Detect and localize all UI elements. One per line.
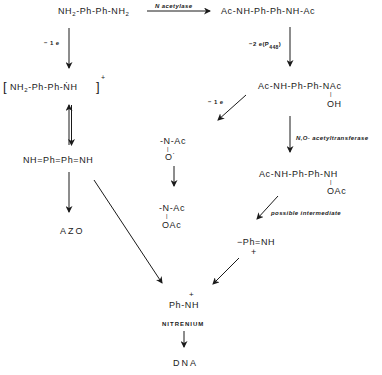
label-minus-2e-p448: −2 e(P448) [249, 41, 281, 50]
node-acetoxy-amide: -N-Ac [159, 204, 185, 213]
node-nitrenium-ion: Ph-NH [169, 301, 199, 310]
bond-hydroxamic: | [330, 91, 332, 97]
charge-iminium: + [251, 248, 257, 257]
node-diacetyl-benzidine: Ac-NH-Ph-Ph-NH-Ac [221, 7, 315, 16]
node-benzidine: NH2-Ph-Ph-NH2 [58, 7, 130, 17]
node-dna: DNA [173, 359, 198, 368]
label-no-acetyltransferase: N,O- acetyltransferase [296, 135, 369, 141]
node-radical-cation: NH2-Ph-Ph-ṄH [10, 83, 78, 93]
node-hydroxamic-acid: Ac-NH-Ph-Ph-NAc [258, 82, 342, 91]
substituent-oac-right: OAc [327, 187, 346, 196]
node-diimine: NH=Ph=Ph=NH [23, 156, 93, 165]
label-minus-1e-right: − 1 e [208, 99, 224, 105]
label-n-acetylase: N acetylase [155, 3, 192, 9]
arrows-layer [0, 0, 382, 375]
node-nitroxide: -N-Ac [160, 137, 186, 146]
label-nitrenium: NITRENIUM [162, 321, 204, 327]
arrow-iminium-to-nitrenium [213, 258, 239, 284]
bracket-open: [ [3, 80, 7, 93]
charge-nitrenium: + [189, 291, 194, 299]
charge-radical-cation: + [101, 74, 106, 81]
bond-acetoxy-amide: | [166, 213, 168, 219]
node-acetoxy-amine: Ac-NH-Ph-Ph-NH [259, 170, 338, 179]
metabolic-pathway-diagram: NH2-Ph-Ph-NH2 N acetylase Ac-NH-Ph-Ph-NH… [0, 0, 382, 375]
arrow-diimine-to-nitrenium [94, 180, 162, 283]
label-possible-intermediate: possible intermediate [271, 210, 341, 216]
bond-acetoxy-amine: | [330, 179, 332, 185]
node-azo: AZO [60, 227, 85, 236]
substituent-oh: OH [327, 100, 342, 109]
label-minus-1e-left: − 1 e [44, 40, 60, 46]
substituent-oac-middle: OAc [162, 221, 181, 230]
bracket-close: ] [96, 80, 100, 93]
node-iminium: −Ph=NH [237, 238, 275, 247]
substituent-o-radical: O˙ [165, 153, 176, 162]
